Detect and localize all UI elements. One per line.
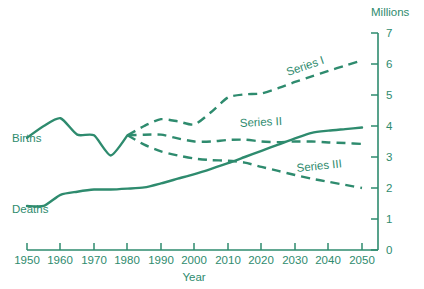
y-axis-unit-label: Millions <box>371 6 410 18</box>
series-line-series-ii <box>128 134 363 144</box>
label-series-ii: Series II <box>239 115 282 129</box>
y-tick-label: 2 <box>386 182 392 194</box>
y-tick-label: 1 <box>386 213 392 225</box>
y-tick-label: 6 <box>386 58 392 70</box>
x-tick-label: 1980 <box>114 254 140 266</box>
label-deaths: Deaths <box>12 203 49 215</box>
label-series-i: Series I <box>285 54 326 78</box>
figure-caption-sliver <box>0 281 424 289</box>
line-chart: 7 6 5 4 3 2 1 0 Millions <box>0 0 424 289</box>
x-tick-label: 1950 <box>14 254 40 266</box>
y-axis-tick-labels: 7 6 5 4 3 2 1 0 <box>386 27 393 256</box>
x-axis: 1950 1960 1970 1980 1990 2000 2010 2020 … <box>14 243 378 283</box>
curve-annotations: Births Deaths Series I Series II Series … <box>12 54 342 215</box>
x-tick-label: 2020 <box>248 254 274 266</box>
x-tick-label: 2050 <box>349 254 375 266</box>
y-axis: 7 6 5 4 3 2 1 0 Millions <box>371 6 410 256</box>
y-tick-label: 4 <box>386 120 393 132</box>
x-tick-label: 1960 <box>47 254 73 266</box>
y-tick-label: 3 <box>386 151 392 163</box>
x-axis-ticks <box>27 243 362 250</box>
x-tick-label: 2000 <box>181 254 207 266</box>
x-tick-label: 2010 <box>215 254 241 266</box>
y-tick-label: 0 <box>386 244 392 256</box>
label-series-iii: Series III <box>296 157 342 174</box>
y-tick-label: 7 <box>386 27 392 39</box>
x-tick-label: 1990 <box>148 254 174 266</box>
series-line-births <box>27 118 128 155</box>
chart-container: 7 6 5 4 3 2 1 0 Millions <box>0 0 424 289</box>
label-births: Births <box>12 132 42 144</box>
x-axis-tick-labels: 1950 1960 1970 1980 1990 2000 2010 2020 … <box>14 254 375 266</box>
y-axis-ticks <box>371 33 378 250</box>
x-tick-label: 1970 <box>81 254 107 266</box>
series-paths <box>27 60 362 206</box>
x-tick-label: 2040 <box>315 254 341 266</box>
y-tick-label: 5 <box>386 89 392 101</box>
x-tick-label: 2030 <box>282 254 308 266</box>
